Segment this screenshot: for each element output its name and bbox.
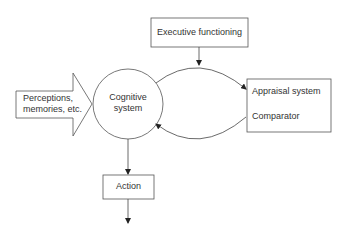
cognitive-to-appraisal-arrow (156, 68, 246, 89)
comparator-label: Comparator (252, 111, 300, 122)
input-label-line1: Perceptions, (23, 93, 73, 104)
executive-label: Executive functioning (151, 27, 248, 38)
cognitive-label-line1: Cognitive (98, 92, 158, 103)
cognitive-label-line2: system (98, 103, 158, 114)
action-label: Action (103, 181, 154, 192)
appraisal-label: Appraisal system (252, 86, 321, 97)
appraisal-to-cognitive-arrow (156, 117, 246, 139)
input-label-line2: memories, etc. (23, 104, 82, 115)
